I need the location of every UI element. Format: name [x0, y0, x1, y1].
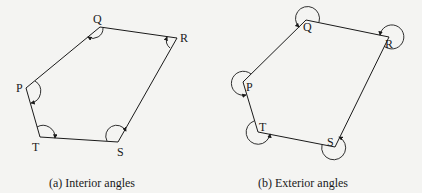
vertex-label-s: S — [327, 135, 334, 149]
vertex-label-s: S — [117, 145, 124, 159]
vertex-label-t: T — [259, 120, 267, 134]
caption-exterior-angles: (b) Exterior angles — [258, 176, 348, 190]
angle-arc-p-interior — [31, 81, 41, 103]
vertex-label-p: P — [246, 80, 253, 94]
panel-exterior-angles: Q R S T P (b) Exterior angles — [231, 7, 403, 190]
angle-arc-q-interior — [88, 28, 103, 38]
vertex-label-p: P — [16, 81, 23, 95]
vertex-label-r: R — [385, 37, 393, 51]
panel-interior-angles: Q R S T P (a) Interior angles — [16, 12, 188, 190]
vertex-label-t: T — [32, 140, 40, 154]
angle-arc-r-interior — [166, 37, 170, 48]
vertex-label-q: Q — [93, 12, 102, 26]
vertex-label-r: R — [180, 31, 188, 45]
vertex-label-q: Q — [303, 20, 312, 34]
figure-interior-exterior-angles: Q R S T P (a) Interior angles Q R S T P … — [0, 0, 422, 193]
pentagon-a — [26, 27, 177, 142]
caption-interior-angles: (a) Interior angles — [49, 176, 135, 190]
diagram-canvas: Q R S T P (a) Interior angles Q R S T P … — [0, 0, 422, 193]
